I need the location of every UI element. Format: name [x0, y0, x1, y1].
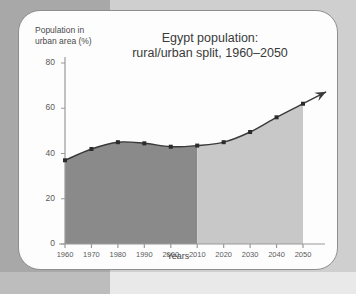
backdrop-band-bottom-left — [0, 272, 110, 294]
data-point-marker — [301, 102, 305, 106]
area-chart-svg — [19, 11, 338, 270]
data-point-marker — [89, 147, 93, 151]
data-point-marker — [248, 130, 252, 134]
chart-card: Population in urban area (%) Egypt popul… — [18, 10, 338, 270]
y-tick-label: 80 — [33, 57, 55, 67]
y-tick-label: 20 — [33, 193, 55, 203]
data-point-marker — [116, 140, 120, 144]
data-point-marker — [195, 144, 199, 148]
plot-area: 0204060801960197019801990200020102020203… — [19, 11, 338, 270]
backdrop-band-bottom-right — [110, 272, 356, 294]
data-point-marker — [275, 115, 279, 119]
data-point-marker — [169, 145, 173, 149]
data-point-marker — [222, 140, 226, 144]
y-tick-label: 60 — [33, 102, 55, 112]
data-point-marker — [63, 158, 67, 162]
y-tick-label: 40 — [33, 148, 55, 158]
x-axis-title: Years — [19, 251, 337, 261]
y-tick-label: 0 — [33, 238, 55, 248]
data-point-marker — [142, 141, 146, 145]
